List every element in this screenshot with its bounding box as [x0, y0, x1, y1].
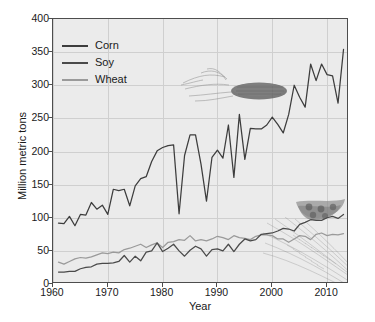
x-axis-tick-mark	[107, 283, 108, 287]
y-axis-tick-label: 200	[9, 145, 49, 157]
x-axis-tick-label: 1960	[40, 286, 63, 298]
x-axis-tick-mark	[326, 283, 327, 287]
chart-legend: CornSoyWheat	[62, 38, 127, 89]
legend-swatch-corn	[62, 45, 88, 47]
legend-label: Wheat	[95, 74, 127, 85]
x-axis-tick-label: 1970	[95, 286, 118, 298]
y-axis-tick-label: 400	[9, 12, 49, 24]
chart-figure: Million metric tons 05010015020025030035…	[0, 0, 375, 322]
x-axis-tick-label: 1980	[150, 286, 173, 298]
y-axis-tick-label: 150	[9, 178, 49, 190]
y-axis-tick-label: 250	[9, 111, 49, 123]
y-axis-tick-label: 350	[9, 45, 49, 57]
x-axis-tick-label: 2010	[314, 286, 337, 298]
y-axis-tick-label: 50	[9, 244, 49, 256]
series-line-soy	[58, 214, 343, 272]
x-axis-tick-mark	[216, 283, 217, 287]
legend-item-soy[interactable]: Soy	[62, 55, 127, 70]
legend-swatch-wheat	[62, 79, 88, 81]
legend-item-corn[interactable]: Corn	[62, 38, 127, 53]
y-axis-tick-label: 100	[9, 211, 49, 223]
x-axis-tick-label: 1990	[205, 286, 228, 298]
x-axis-tick-mark	[271, 283, 272, 287]
y-axis-tick-label: 300	[9, 78, 49, 90]
legend-label: Soy	[95, 57, 114, 68]
x-axis-label: Year	[52, 300, 348, 312]
x-axis-tick-mark	[52, 283, 53, 287]
x-axis-tick-mark	[162, 283, 163, 287]
legend-swatch-soy	[62, 62, 88, 64]
x-axis-tick-label: 2000	[260, 286, 283, 298]
legend-item-wheat[interactable]: Wheat	[62, 72, 127, 87]
legend-label: Corn	[95, 40, 119, 51]
